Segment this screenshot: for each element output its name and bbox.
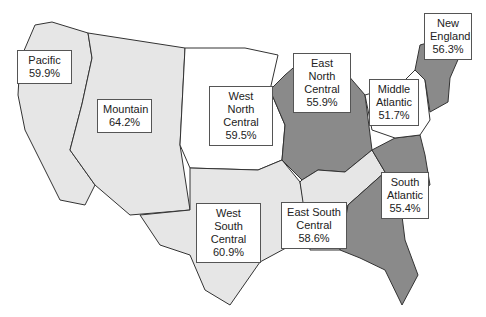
us-census-division-map: Pacific 59.9% Mountain 64.2% West North … — [0, 0, 486, 317]
region-value: 59.5% — [215, 129, 267, 142]
label-east-north-central: East North Central 55.9% — [293, 53, 351, 113]
label-east-south-central: East South Central 58.6% — [281, 202, 347, 249]
region-name-line2: Atlantic — [387, 189, 423, 202]
label-west-south-central: West South Central 60.9% — [196, 203, 261, 263]
label-mountain: Mountain 64.2% — [97, 99, 152, 133]
region-name-line2: England — [430, 30, 466, 43]
map-svg — [0, 0, 486, 317]
region-value: 64.2% — [103, 116, 146, 129]
region-name-line2: Central — [287, 219, 341, 232]
label-middle-atlantic: Middle Atlantic 51.7% — [369, 79, 419, 126]
region-name-line1: West South — [202, 207, 255, 233]
label-west-north-central: West North Central 59.5% — [209, 86, 273, 146]
region-value: 51.7% — [375, 109, 413, 122]
region-name-line2: Central — [299, 83, 345, 96]
region-name-line1: New — [430, 17, 466, 30]
region-value: 58.6% — [287, 232, 341, 245]
region-name-line1: South — [387, 176, 423, 189]
label-new-england: New England 56.3% — [424, 13, 472, 60]
label-south-atlantic: South Atlantic 55.4% — [381, 172, 429, 219]
region-value: 55.9% — [299, 96, 345, 109]
region-value: 59.9% — [23, 67, 66, 80]
region-value: 55.4% — [387, 202, 423, 215]
region-name-line1: East South — [287, 206, 341, 219]
region-value: 56.3% — [430, 43, 466, 56]
region-name-line1: East North — [299, 57, 345, 83]
region-name-line1: Middle — [375, 83, 413, 96]
region-name-line2: Central — [202, 233, 255, 246]
region-value: 60.9% — [202, 246, 255, 259]
region-name: Mountain — [103, 103, 146, 116]
region-name-line2: Atlantic — [375, 96, 413, 109]
region-name-line2: Central — [215, 116, 267, 129]
label-pacific: Pacific 59.9% — [17, 50, 72, 84]
region-name: Pacific — [23, 54, 66, 67]
region-name-line1: West North — [215, 90, 267, 116]
